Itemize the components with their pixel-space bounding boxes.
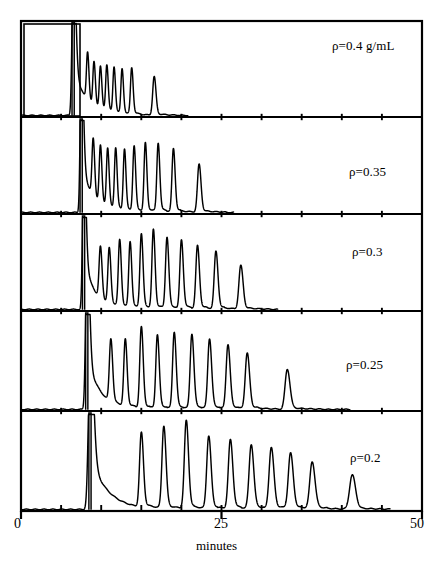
- panel-label-rho-0-25: ρ=0.25: [346, 357, 383, 373]
- panel-label-rho-0-2: ρ=0.2: [350, 450, 381, 466]
- chromatogram-trace-1: [21, 121, 234, 213]
- chromatogram-trace-2: [21, 218, 278, 310]
- panel-label-rho-0-4: ρ=0.4 g/mL: [332, 38, 394, 54]
- chromatogram-trace-3: [21, 315, 350, 410]
- chromatogram-trace-0: [21, 24, 188, 116]
- solvent-peak-0: [72, 22, 74, 116]
- panel-label-rho-0-35: ρ=0.35: [349, 164, 386, 180]
- x-tick-label-0: 0: [14, 516, 21, 532]
- chromatogram-trace-4: [21, 415, 390, 510]
- chromatogram-plot-area: [0, 0, 447, 564]
- panel-label-rho-0-3: ρ=0.3: [352, 244, 383, 260]
- chromatogram-figure: ρ=0.4 g/mL ρ=0.35 ρ=0.3 ρ=0.25 ρ=0.2 0 2…: [0, 0, 447, 564]
- x-axis-title: minutes: [196, 538, 237, 554]
- x-tick-label-25: 25: [214, 516, 228, 532]
- solvent-peak-4: [89, 413, 91, 510]
- solvent-peak-2: [82, 216, 84, 310]
- solvent-peak-1: [80, 119, 82, 213]
- x-tick-label-50: 50: [410, 516, 424, 532]
- solvent-peak-3: [86, 313, 88, 410]
